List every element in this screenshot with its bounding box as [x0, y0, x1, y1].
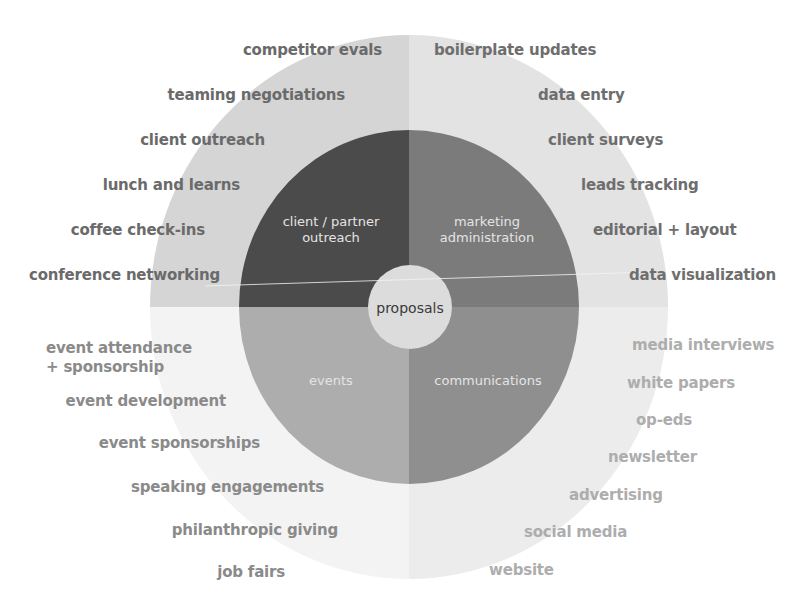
segment-label-line1: events	[309, 373, 353, 389]
item-philanthropic-giving: philanthropic giving	[172, 521, 338, 539]
item-client-surveys: client surveys	[548, 131, 663, 149]
item-data-entry: data entry	[538, 86, 625, 104]
item-website: website	[489, 561, 554, 579]
segment-label-communications: communications	[434, 373, 541, 389]
segment-label-client-partner-outreach: client / partner outreach	[283, 214, 380, 246]
item-media-interviews: media interviews	[632, 336, 774, 354]
item-job-fairs: job fairs	[217, 563, 285, 581]
item-client-outreach: client outreach	[140, 131, 265, 149]
item-lunch-and-learns: lunch and learns	[103, 176, 240, 194]
segment-label-line2: administration	[440, 230, 534, 246]
item-newsletter: newsletter	[608, 448, 697, 466]
item-leads-tracking: leads tracking	[581, 176, 699, 194]
segment-label-marketing-administration: marketing administration	[440, 214, 534, 246]
item-event-sponsorships: event sponsorships	[99, 434, 260, 452]
segment-label-line1: communications	[434, 373, 541, 389]
segment-label-line1: marketing	[440, 214, 534, 230]
item-white-papers: white papers	[627, 374, 735, 392]
segment-label-line1: client / partner	[283, 214, 380, 230]
item-advertising: advertising	[569, 486, 663, 504]
segment-label-line2: outreach	[283, 230, 380, 246]
item-coffee-check-ins: coffee check-ins	[71, 221, 205, 239]
item-editorial-layout: editorial + layout	[593, 221, 736, 239]
item-speaking-engagements: speaking engagements	[131, 478, 324, 496]
item-event-attendance: event attendance	[46, 339, 192, 357]
item-teaming-negotiations: teaming negotiations	[168, 86, 345, 104]
item-competitor-evals: competitor evals	[243, 41, 382, 59]
item-op-eds: op-eds	[636, 411, 692, 429]
item-event-development: event development	[66, 392, 227, 410]
item-boilerplate-updates: boilerplate updates	[434, 41, 596, 59]
segment-label-events: events	[309, 373, 353, 389]
item-social-media: social media	[524, 523, 627, 541]
item-data-visualization: data visualization	[629, 266, 776, 284]
center-label: proposals	[376, 300, 443, 316]
item-conference-networking: conference networking	[29, 266, 220, 284]
item-event-attendance-sponsorship: + sponsorship	[46, 358, 164, 376]
